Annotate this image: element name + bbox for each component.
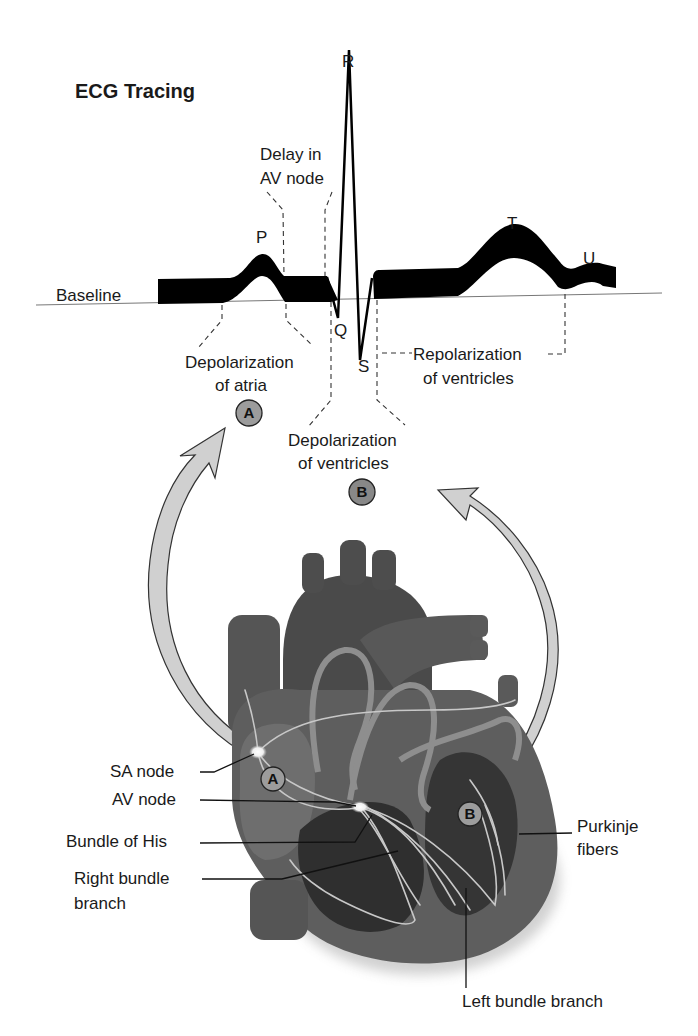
- ecg-badge-b: B: [349, 479, 375, 505]
- heart-illustration: [228, 540, 560, 975]
- svg-text:A: A: [268, 770, 279, 787]
- diagram-title: ECG Tracing: [75, 80, 195, 102]
- purkinje-label-line2: fibers: [577, 840, 619, 859]
- s-wave-label: S: [358, 357, 369, 376]
- av-node-marker: [351, 801, 369, 813]
- delay-av-label-line1: Delay in: [260, 145, 321, 164]
- ecg-badge-a: A: [236, 400, 262, 426]
- repol-vent-label-line2: of ventricles: [423, 369, 514, 388]
- right-bundle-label-line1: Right bundle: [74, 869, 169, 888]
- delay-av-leader-right: [325, 192, 332, 276]
- baseline-label: Baseline: [56, 286, 121, 305]
- q-wave-label: Q: [334, 321, 347, 340]
- p-wave-label: P: [256, 228, 267, 247]
- qrs-complex: [327, 50, 372, 360]
- heart-badge-a: A: [261, 767, 285, 791]
- repol-vent-label-line1: Repolarization: [413, 345, 522, 364]
- depol-atria-label-line1: Depolarization: [185, 353, 294, 372]
- depol-atria-leader-right: [286, 304, 312, 345]
- right-bundle-label-line2: branch: [74, 894, 126, 913]
- delay-av-label-line2: AV node: [260, 169, 324, 188]
- heart-badge-b: B: [458, 802, 482, 826]
- depol-vent-leader-right: [377, 300, 405, 425]
- baseline-line: [36, 293, 662, 305]
- depol-vent-label-line2: of ventricles: [298, 454, 389, 473]
- u-wave-label: U: [583, 249, 595, 268]
- bundle-of-his-label: Bundle of His: [66, 832, 167, 851]
- purkinje-label-line1: Purkinje: [577, 817, 638, 836]
- sa-node-label: SA node: [110, 762, 174, 781]
- av-node-label: AV node: [112, 790, 176, 809]
- svg-text:B: B: [465, 805, 476, 822]
- depol-atria-leader-left: [198, 305, 222, 348]
- repol-leader-right: [548, 290, 565, 354]
- sa-node-marker: [249, 745, 267, 759]
- ecg-heart-diagram: ECG Tracing R P Q S T U Baseline Delay i…: [0, 0, 698, 1036]
- depol-vent-label-line1: Depolarization: [288, 431, 397, 450]
- svg-text:B: B: [357, 483, 368, 500]
- depol-atria-label-line2: of atria: [215, 376, 268, 395]
- depol-vent-leader-left: [308, 302, 331, 427]
- st-t-u-segment: [373, 224, 616, 299]
- svg-text:A: A: [244, 404, 255, 421]
- p-wave-segment: [158, 254, 338, 304]
- r-wave-label: R: [342, 52, 354, 71]
- t-wave-label: T: [507, 214, 517, 233]
- left-bundle-label: Left bundle branch: [462, 992, 603, 1011]
